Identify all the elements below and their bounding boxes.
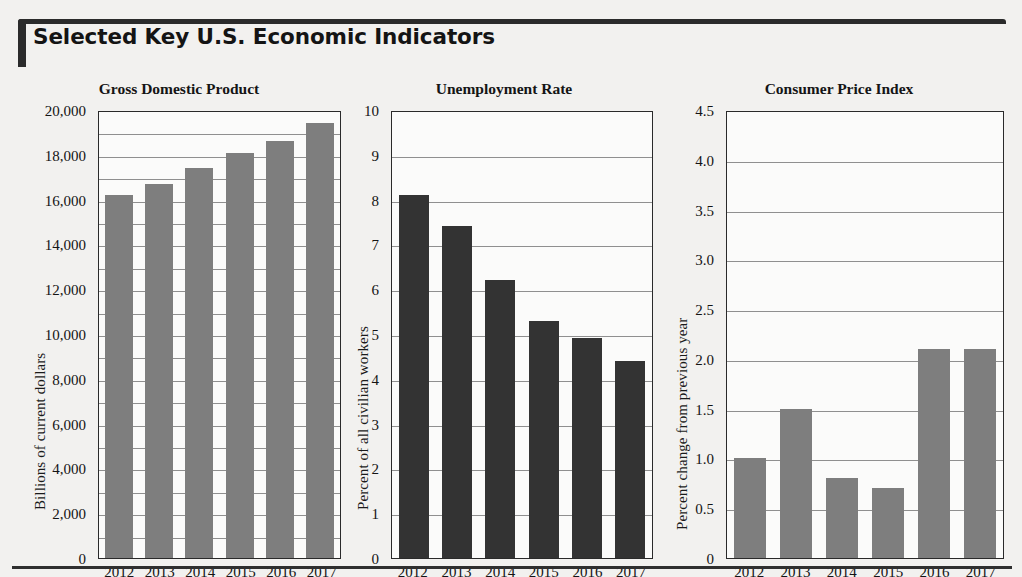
y-tick-label: 3.5	[695, 203, 714, 218]
y-tick-label: 0	[79, 552, 87, 567]
y-tick-label: 18,000	[45, 148, 86, 163]
chart-panel-gross-domestic-product: Gross Domestic Product Billions of curre…	[14, 80, 344, 560]
plot-area	[391, 111, 653, 559]
bar	[485, 280, 515, 558]
y-tick-label: 1.0	[695, 452, 714, 467]
y-axis-tick-labels: 4.54.03.53.02.52.01.51.00.50	[664, 111, 720, 559]
plot-area	[98, 111, 341, 559]
bar-series	[727, 112, 1003, 558]
bar	[826, 478, 858, 558]
y-tick-label: 16,000	[45, 193, 86, 208]
y-tick-label: 4	[372, 372, 380, 387]
y-tick-label: 2.0	[695, 352, 714, 367]
y-axis-tick-labels: 20,00018,00016,00014,00012,00010,0008,00…	[14, 111, 92, 559]
chart-panel-consumer-price-index: Consumer Price Index Percent change from…	[664, 80, 1014, 560]
y-tick-label: 6,000	[52, 417, 86, 432]
footer-rule	[12, 566, 1012, 569]
chart-panel-unemployment-rate: Unemployment Rate Percent of all civilia…	[345, 80, 663, 560]
y-tick-label: 1	[372, 507, 380, 522]
bar	[226, 153, 254, 558]
y-tick-label: 14,000	[45, 238, 86, 253]
chart-title: Consumer Price Index	[664, 80, 1014, 98]
y-axis-tick-labels: 109876543210	[345, 111, 385, 559]
bracket-left-bar	[18, 19, 26, 67]
y-tick-label: 8	[372, 193, 380, 208]
chart-title: Unemployment Rate	[345, 80, 663, 98]
bar	[918, 349, 950, 558]
y-tick-label: 12,000	[45, 283, 86, 298]
y-tick-label: 1.5	[695, 402, 714, 417]
y-tick-label: 6	[372, 283, 380, 298]
bar	[105, 195, 133, 558]
bar	[399, 195, 429, 558]
bar	[306, 123, 334, 558]
bar	[615, 361, 645, 558]
y-tick-label: 3.0	[695, 253, 714, 268]
bar	[734, 458, 766, 558]
bar	[442, 226, 472, 558]
bar	[145, 184, 173, 558]
y-tick-label: 10,000	[45, 328, 86, 343]
bar	[266, 141, 294, 558]
y-tick-label: 2	[372, 462, 380, 477]
y-tick-label: 10	[364, 104, 379, 119]
y-tick-label: 4.5	[695, 104, 714, 119]
bar	[872, 488, 904, 558]
y-tick-label: 8,000	[52, 372, 86, 387]
bar	[780, 409, 812, 558]
bar-series	[99, 112, 340, 558]
y-tick-label: 5	[372, 328, 380, 343]
y-tick-label: 0	[707, 552, 715, 567]
bar	[572, 338, 602, 558]
bar	[185, 168, 213, 558]
y-tick-label: 20,000	[45, 104, 86, 119]
y-tick-label: 9	[372, 148, 380, 163]
y-tick-label: 2,000	[52, 507, 86, 522]
y-tick-label: 7	[372, 238, 380, 253]
bar	[964, 349, 996, 558]
y-tick-label: 0	[372, 552, 380, 567]
bar-series	[392, 112, 652, 558]
y-tick-label: 3	[372, 417, 380, 432]
y-tick-label: 2.5	[695, 303, 714, 318]
y-tick-label: 0.5	[695, 502, 714, 517]
chart-title: Gross Domestic Product	[14, 80, 344, 98]
y-tick-label: 4.0	[695, 153, 714, 168]
plot-area	[726, 111, 1004, 559]
bar	[529, 321, 559, 558]
y-tick-label: 4,000	[52, 462, 86, 477]
page-title: Selected Key U.S. Economic Indicators	[33, 24, 495, 49]
